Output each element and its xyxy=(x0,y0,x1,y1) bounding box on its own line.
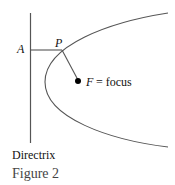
point-a-label: A xyxy=(17,42,24,57)
focus-point xyxy=(75,78,81,84)
focus-equals-label: = focus xyxy=(96,75,132,90)
directrix-label: Directrix xyxy=(12,148,55,163)
parabola-figure: A P F = focus Directrix Figure 2 xyxy=(0,0,175,185)
focus-f-label: F xyxy=(86,75,93,90)
point-p-label: P xyxy=(55,36,62,51)
segment-p-f xyxy=(62,50,78,80)
figure-caption: Figure 2 xyxy=(12,166,59,182)
